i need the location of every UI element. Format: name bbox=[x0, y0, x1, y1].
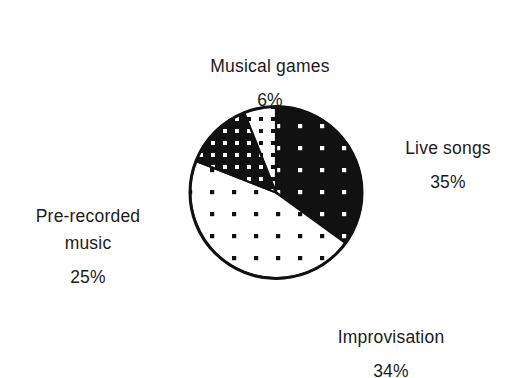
pie-label-pre-recorded-music-name: Pre-recorded music bbox=[36, 206, 141, 253]
pie-label-pre-recorded-music: Pre-recorded music 25% bbox=[4, 176, 172, 319]
pie-label-musical-games-name: Musical games bbox=[210, 56, 329, 76]
pie-label-musical-games-percent: 6% bbox=[160, 87, 380, 114]
pie-label-improvisation: Improvisation 34% bbox=[296, 297, 486, 378]
pie-label-improvisation-percent: 34% bbox=[296, 358, 486, 378]
pie-label-improvisation-name: Improvisation bbox=[338, 327, 445, 347]
pie-label-musical-games: Musical games 6% bbox=[160, 26, 380, 142]
pie-label-pre-recorded-music-percent: 25% bbox=[4, 264, 172, 291]
pie-label-live-songs: Live songs 35% bbox=[378, 108, 518, 224]
pie-chart: Musical games 6% Live songs 35% Pre-reco… bbox=[0, 0, 523, 378]
pie-label-live-songs-name: Live songs bbox=[405, 138, 491, 158]
pie-label-live-songs-percent: 35% bbox=[378, 169, 518, 196]
